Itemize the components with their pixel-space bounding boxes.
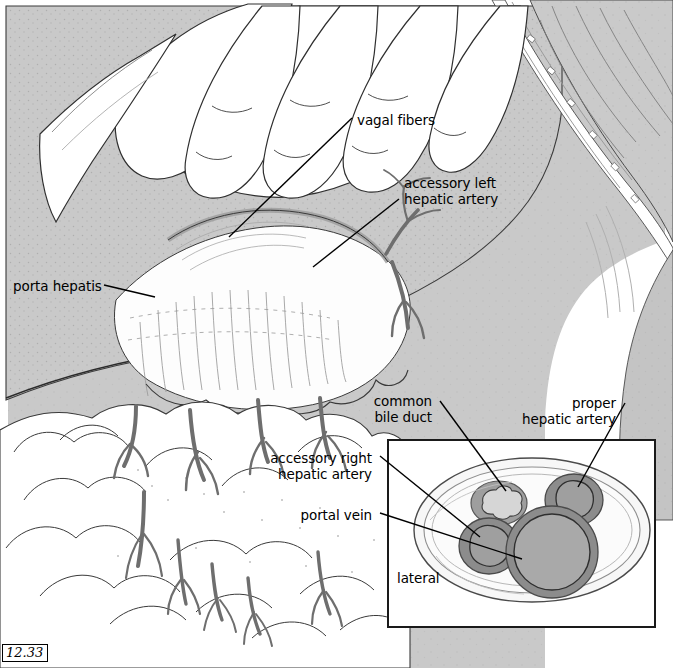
inset-cross-section	[388, 440, 655, 627]
label-porta-hepatis: porta hepatis	[13, 279, 102, 295]
label-proper-hepatic-artery: proper hepatic artery	[472, 396, 616, 427]
label-accessory-right-hepatic-artery: accessory right hepatic artery	[242, 451, 372, 482]
figure-number: 12.33	[2, 644, 48, 662]
label-lateral: lateral	[397, 571, 440, 587]
inset-portal-vein	[506, 506, 598, 598]
illustration-canvas	[0, 0, 673, 668]
label-common-bile-duct: common bile duct	[332, 394, 432, 425]
inset-common-bile-duct	[471, 481, 527, 525]
label-vagal-fibers: vagal fibers	[357, 113, 435, 129]
label-accessory-left-hepatic-artery: accessory left hepatic artery	[404, 176, 498, 207]
anatomical-figure: vagal fibers accessory left hepatic arte…	[0, 0, 673, 668]
label-portal-vein: portal vein	[262, 508, 372, 524]
